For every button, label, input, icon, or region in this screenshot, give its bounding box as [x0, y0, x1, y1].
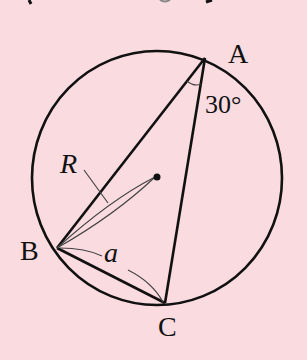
cropped-glyph-fragment — [29, 0, 31, 4]
center-point — [154, 174, 161, 181]
vertex-label-B: B — [20, 237, 39, 265]
cropped-glyph-fragment — [160, 0, 170, 2]
cropped-glyph-fragment — [206, 0, 212, 2]
geometry-diagram: A B C R a 30° — [0, 0, 307, 360]
diagram-svg — [0, 0, 307, 360]
radius-label: R — [60, 150, 77, 178]
side-AB — [57, 58, 205, 248]
side-AC — [165, 58, 205, 303]
vertex-label-C: C — [158, 313, 177, 341]
vertex-label-A: A — [228, 40, 248, 68]
angle-label-A: 30° — [205, 92, 241, 118]
angle-arc-A — [187, 81, 201, 85]
side-label-a: a — [104, 239, 118, 267]
